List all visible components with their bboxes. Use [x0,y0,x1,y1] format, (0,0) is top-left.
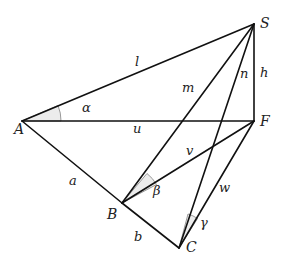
edge-label-n: n [240,66,248,81]
edge-label-v: v [186,143,194,158]
vertex-label-A: A [12,121,24,137]
vertex-label-B: B [106,206,117,222]
edge-n-CS [179,24,254,248]
edge-label-h: h [260,65,268,80]
pyramid-diagram: A S F B C l m n h u a b v w α β γ [0,0,284,262]
edge-label-m: m [182,80,194,95]
edge-v-BF [122,121,254,203]
edge-a-AB [22,121,122,203]
angle-label-beta: β [152,183,161,198]
vertex-label-F: F [259,113,271,129]
edge-label-w: w [219,180,230,195]
edge-label-l: l [135,54,139,69]
edge-label-u: u [133,121,141,136]
vertex-label-C: C [186,239,197,255]
angle-beta-arc [122,174,157,204]
edge-label-b: b [134,229,142,244]
edge-b-BC [122,203,179,248]
angle-label-gamma: γ [200,215,208,230]
edge-w-CF [179,121,254,248]
edge-label-a: a [69,173,77,188]
vertex-label-S: S [260,15,270,31]
angle-label-alpha: α [82,100,91,115]
